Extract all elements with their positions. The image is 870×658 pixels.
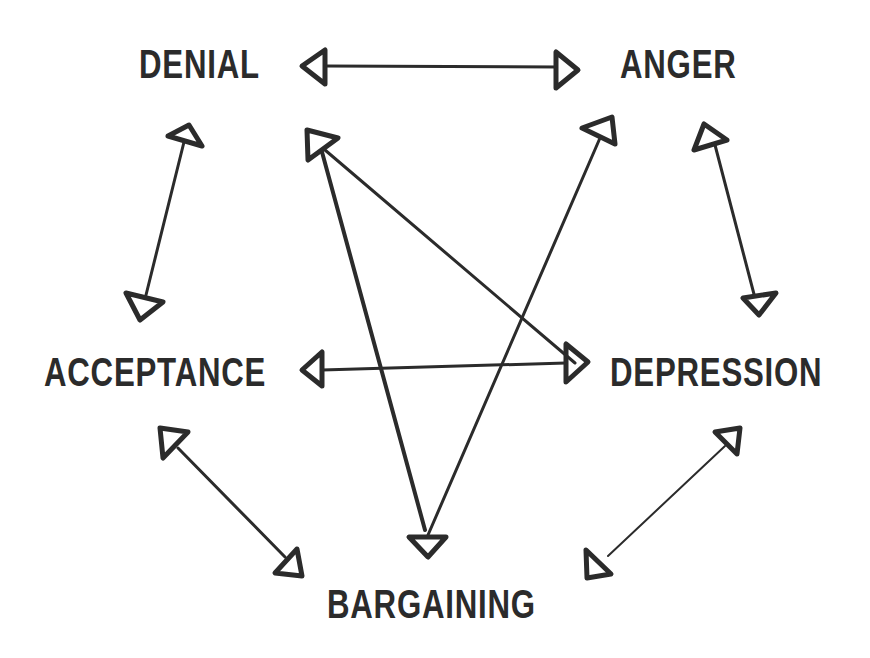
edge-acceptance-bargaining: [160, 428, 302, 576]
grief-stages-diagram: DENIAL ANGER ACCEPTANCE DEPRESSION BARGA…: [0, 0, 870, 658]
edge-anger-depression: [694, 124, 776, 315]
edge-denial-anger: [302, 50, 578, 88]
arrowhead-icon: [302, 50, 325, 84]
arrowhead-icon: [126, 293, 163, 320]
arrowhead-icon: [168, 125, 202, 146]
arrowhead-icon: [586, 550, 611, 578]
arrowhead-icon: [302, 352, 322, 386]
node-anger: ANGER: [620, 44, 737, 84]
arrows-layer: [0, 0, 870, 658]
arrowhead-icon: [556, 52, 578, 88]
edge-anger-bargaining: [428, 117, 615, 535]
node-depression: DEPRESSION: [610, 352, 822, 392]
node-acceptance: ACCEPTANCE: [44, 352, 266, 392]
arrowhead-icon: [566, 344, 588, 382]
arrowhead-icon: [743, 293, 776, 315]
edge-acceptance-depression: [302, 344, 588, 386]
edge-denial-acceptance: [126, 125, 202, 320]
arrowhead-icon: [694, 124, 727, 150]
edge-depression-bargaining: [586, 428, 740, 578]
node-denial: DENIAL: [139, 44, 260, 84]
node-bargaining: BARGAINING: [327, 584, 536, 624]
arrowhead-icon: [715, 428, 740, 454]
arrowhead-icon: [409, 537, 446, 557]
edge-denial-depression: [325, 150, 575, 363]
